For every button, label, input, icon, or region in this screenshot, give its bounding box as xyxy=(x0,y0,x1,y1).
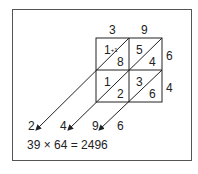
top-digit-2: 9 xyxy=(141,24,148,36)
equation: 39 × 64 = 2496 xyxy=(27,139,108,151)
cell-lower: 8 xyxy=(117,56,124,68)
right-digit-1: 6 xyxy=(166,50,173,62)
cell-lower: 6 xyxy=(149,88,156,100)
cell-lower: 4 xyxy=(149,56,156,68)
cell-upper: 5 xyxy=(136,44,143,56)
result-digit-4: 6 xyxy=(117,120,124,132)
result-digit-3: 9 xyxy=(92,120,99,132)
right-digit-2: 4 xyxy=(166,82,173,94)
result-digit-2: 4 xyxy=(60,120,67,132)
top-digit-1: 3 xyxy=(109,24,116,36)
cell-upper: 1+1 xyxy=(104,44,118,56)
cell-upper: 3 xyxy=(136,76,143,88)
cell-lower: 2 xyxy=(117,88,124,100)
result-digit-1: 2 xyxy=(28,120,35,132)
cell-upper: 1 xyxy=(104,76,111,88)
